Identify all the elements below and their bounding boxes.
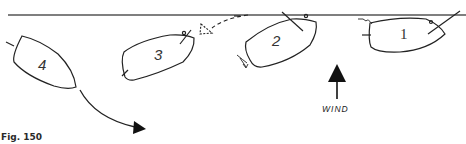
dashed-turn-arrow-icon — [200, 15, 248, 34]
sailing-diagram — [0, 0, 466, 144]
boat-3-number: 3 — [154, 46, 162, 63]
boat-1-number: 1 — [400, 26, 408, 43]
wind-arrow-icon — [328, 64, 346, 99]
course-arrow-icon — [80, 90, 146, 134]
figure-caption: Fig. 150 — [1, 132, 42, 142]
boat-2-number: 2 — [272, 32, 280, 49]
boat-4-number: 4 — [38, 56, 46, 73]
boat-1-hull — [358, 11, 460, 52]
wind-label: WIND — [322, 104, 349, 114]
